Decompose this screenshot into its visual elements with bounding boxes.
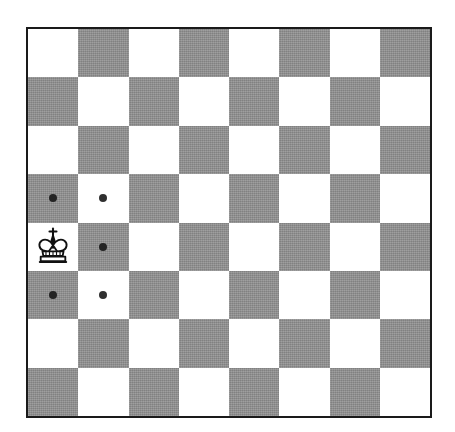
board-square-g6[interactable] — [330, 126, 380, 174]
board-square-h2[interactable] — [380, 319, 430, 367]
board-square-e7[interactable] — [229, 77, 279, 125]
chess-diagram-page — [0, 0, 455, 432]
chess-board-grid — [28, 29, 430, 416]
board-square-e1[interactable] — [229, 368, 279, 416]
board-square-c7[interactable] — [129, 77, 179, 125]
board-square-g4[interactable] — [330, 223, 380, 271]
board-square-a8[interactable] — [28, 29, 78, 77]
board-square-f4[interactable] — [279, 223, 329, 271]
board-square-h7[interactable] — [380, 77, 430, 125]
board-square-f2[interactable] — [279, 319, 329, 367]
move-marker-dot-b4[interactable] — [99, 243, 107, 251]
board-square-b2[interactable] — [78, 319, 128, 367]
board-square-d5[interactable] — [179, 174, 229, 222]
move-marker-dot-a3[interactable] — [49, 291, 57, 299]
board-square-c1[interactable] — [129, 368, 179, 416]
board-square-h8[interactable] — [380, 29, 430, 77]
board-square-e2[interactable] — [229, 319, 279, 367]
board-square-g1[interactable] — [330, 368, 380, 416]
board-square-b8[interactable] — [78, 29, 128, 77]
board-square-g5[interactable] — [330, 174, 380, 222]
board-square-a4[interactable] — [28, 223, 78, 271]
board-square-d2[interactable] — [179, 319, 229, 367]
board-square-f7[interactable] — [279, 77, 329, 125]
board-square-e4[interactable] — [229, 223, 279, 271]
board-square-e6[interactable] — [229, 126, 279, 174]
board-square-d4[interactable] — [179, 223, 229, 271]
board-square-c6[interactable] — [129, 126, 179, 174]
board-square-d8[interactable] — [179, 29, 229, 77]
board-square-f3[interactable] — [279, 271, 329, 319]
white-king-icon[interactable] — [28, 223, 78, 271]
board-square-f1[interactable] — [279, 368, 329, 416]
board-square-b3[interactable] — [78, 271, 128, 319]
board-square-e5[interactable] — [229, 174, 279, 222]
board-square-b7[interactable] — [78, 77, 128, 125]
board-square-f5[interactable] — [279, 174, 329, 222]
board-square-d3[interactable] — [179, 271, 229, 319]
board-square-c8[interactable] — [129, 29, 179, 77]
move-marker-dot-b5[interactable] — [99, 194, 107, 202]
board-square-h5[interactable] — [380, 174, 430, 222]
board-square-b4[interactable] — [78, 223, 128, 271]
board-square-c2[interactable] — [129, 319, 179, 367]
board-square-f6[interactable] — [279, 126, 329, 174]
board-square-d6[interactable] — [179, 126, 229, 174]
board-square-g3[interactable] — [330, 271, 380, 319]
board-square-a7[interactable] — [28, 77, 78, 125]
board-square-a5[interactable] — [28, 174, 78, 222]
board-square-c4[interactable] — [129, 223, 179, 271]
board-square-h4[interactable] — [380, 223, 430, 271]
board-square-b6[interactable] — [78, 126, 128, 174]
board-square-g2[interactable] — [330, 319, 380, 367]
board-square-d1[interactable] — [179, 368, 229, 416]
board-square-e3[interactable] — [229, 271, 279, 319]
board-square-a2[interactable] — [28, 319, 78, 367]
board-square-e8[interactable] — [229, 29, 279, 77]
board-square-h6[interactable] — [380, 126, 430, 174]
board-square-b1[interactable] — [78, 368, 128, 416]
chess-board[interactable] — [26, 27, 432, 418]
board-square-a1[interactable] — [28, 368, 78, 416]
board-square-d7[interactable] — [179, 77, 229, 125]
board-square-b5[interactable] — [78, 174, 128, 222]
board-square-g7[interactable] — [330, 77, 380, 125]
board-square-c5[interactable] — [129, 174, 179, 222]
move-marker-dot-b3[interactable] — [99, 291, 107, 299]
board-square-a3[interactable] — [28, 271, 78, 319]
board-square-c3[interactable] — [129, 271, 179, 319]
move-marker-dot-a5[interactable] — [49, 194, 57, 202]
board-square-h1[interactable] — [380, 368, 430, 416]
board-square-h3[interactable] — [380, 271, 430, 319]
board-square-g8[interactable] — [330, 29, 380, 77]
white-king-glyph — [31, 225, 75, 269]
board-square-a6[interactable] — [28, 126, 78, 174]
board-square-f8[interactable] — [279, 29, 329, 77]
